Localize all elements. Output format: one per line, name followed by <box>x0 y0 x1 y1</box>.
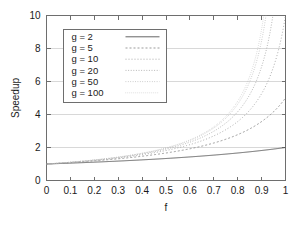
x-tick-label: 0.4 <box>135 185 149 196</box>
x-tick-label: 0.5 <box>159 185 173 196</box>
x-tick-label: 0.7 <box>207 185 221 196</box>
x-tick-label: 0.6 <box>183 185 197 196</box>
legend-label-5: g = 100 <box>72 87 104 98</box>
y-tick-label: 4 <box>35 109 41 120</box>
x-tick-label: 0.9 <box>255 185 269 196</box>
legend-label-2: g = 10 <box>72 53 99 64</box>
y-tick-label: 10 <box>29 10 41 21</box>
x-tick-label: 1 <box>283 185 289 196</box>
x-tick-label: 0.2 <box>87 185 101 196</box>
series-curve-g5 <box>47 98 286 164</box>
legend: g = 2g = 5g = 10g = 20g = 50g = 100 <box>64 30 167 103</box>
legend-label-4: g = 50 <box>72 76 99 87</box>
legend-label-1: g = 5 <box>72 42 93 53</box>
y-tick-label: 2 <box>35 142 41 153</box>
y-axis-title: Speedup <box>10 78 21 118</box>
legend-label-0: g = 2 <box>72 31 93 42</box>
x-tick-label: 0 <box>44 185 50 196</box>
chart-canvas: 00.10.20.30.40.50.60.70.80.91 0246810 fS… <box>0 0 300 231</box>
x-axis-tick-labels: 00.10.20.30.40.50.60.70.80.91 <box>44 185 289 196</box>
x-tick-label: 0.3 <box>111 185 125 196</box>
y-tick-label: 8 <box>35 43 41 54</box>
speedup-chart: 00.10.20.30.40.50.60.70.80.91 0246810 fS… <box>0 0 300 231</box>
y-tick-label: 6 <box>35 76 41 87</box>
y-axis-tick-labels: 0246810 <box>29 10 41 186</box>
x-tick-label: 0.8 <box>231 185 245 196</box>
legend-label-3: g = 20 <box>72 65 99 76</box>
y-tick-label: 0 <box>35 175 41 186</box>
series-curve-g2 <box>47 148 286 165</box>
x-tick-label: 0.1 <box>63 185 77 196</box>
x-axis-title: f <box>165 202 168 213</box>
